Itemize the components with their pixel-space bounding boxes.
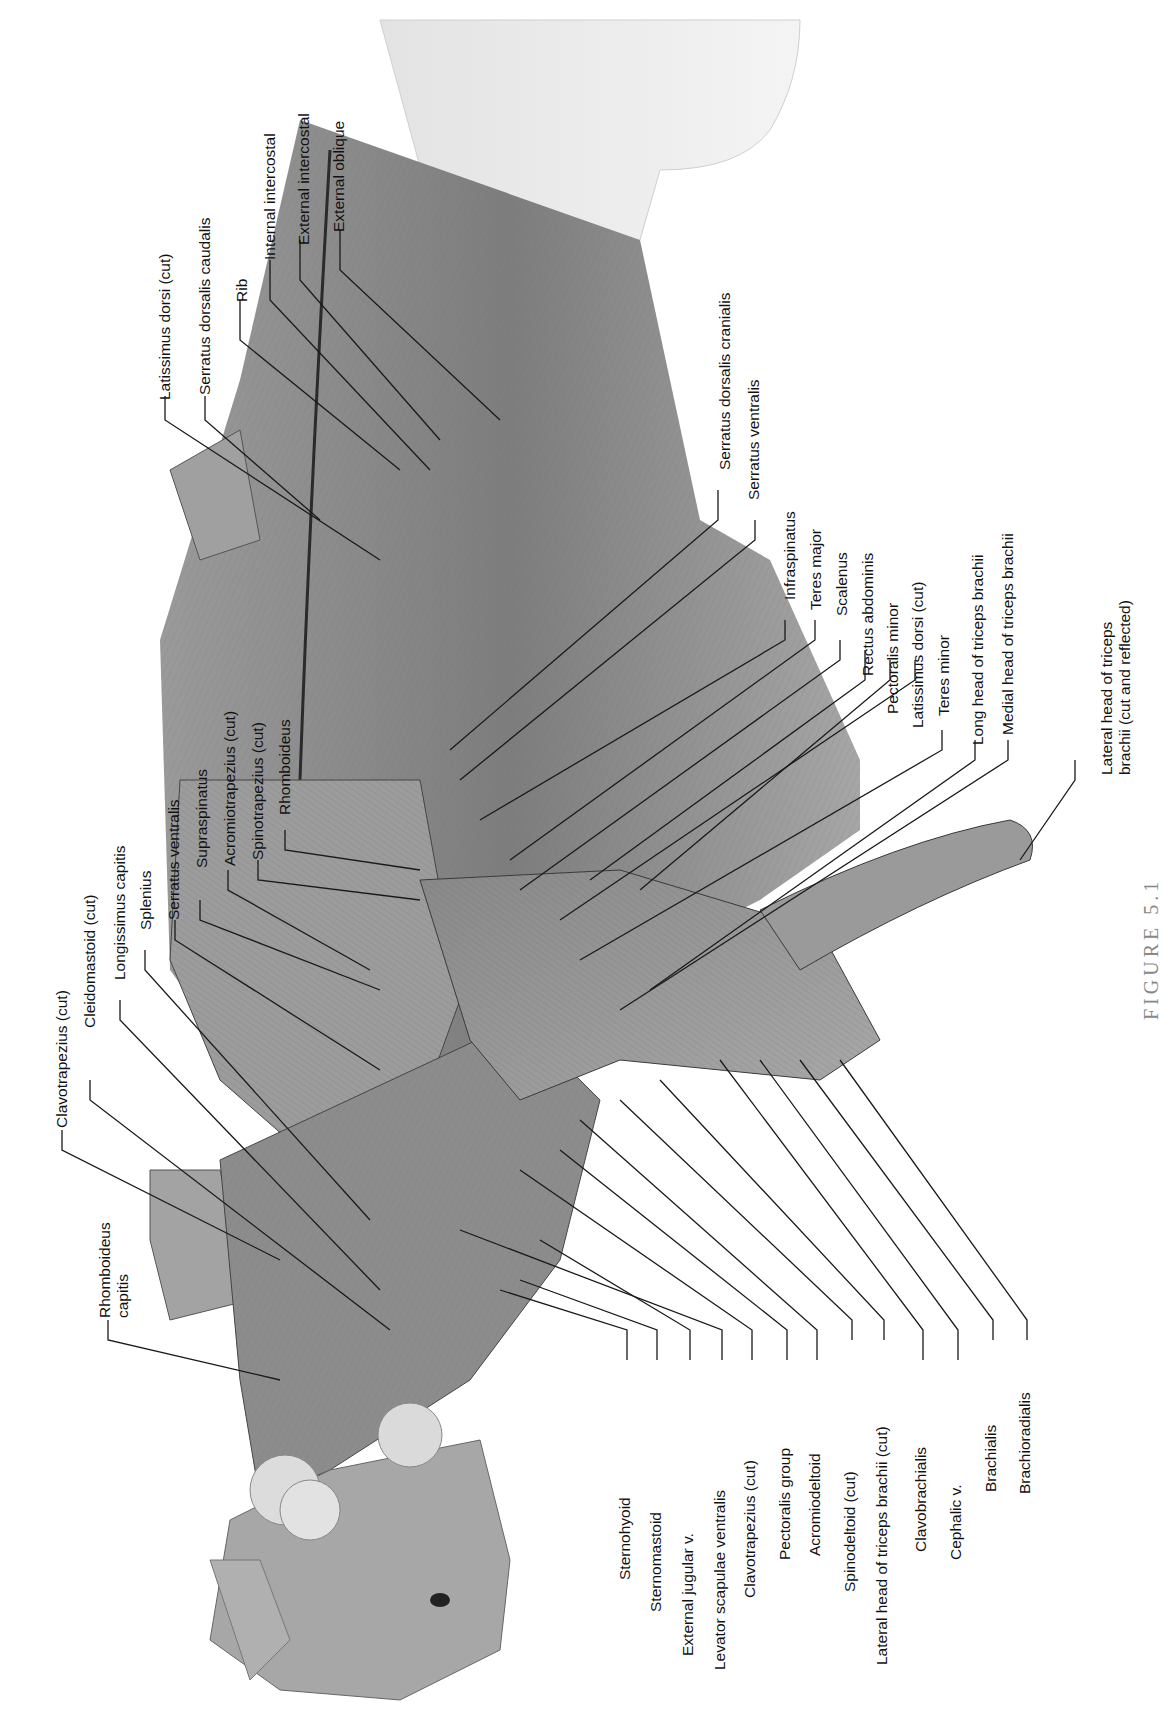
label-supraspinatus: Supraspinatus bbox=[194, 769, 210, 868]
label-sternohyoid: Sternohyoid bbox=[617, 1497, 633, 1580]
label-clavotrapezius-cut-left: Clavotrapezius (cut) bbox=[54, 990, 70, 1128]
label-splenius: Splenius bbox=[138, 871, 154, 930]
eye bbox=[430, 1593, 450, 1607]
label-latissimus-dorsi-cut-top: Latissimus dorsi (cut) bbox=[157, 254, 173, 400]
label-rhomboideus-capitis: Rhomboideus capitis bbox=[96, 1222, 132, 1318]
label-rhomboideus-capitis-line1: Rhomboideus bbox=[96, 1222, 114, 1318]
label-pectoralis-minor: Pectoralis minor bbox=[885, 603, 901, 714]
label-external-jugular-v: External jugular v. bbox=[680, 1533, 696, 1656]
label-rhomboideus: Rhomboideus bbox=[277, 719, 293, 815]
label-latissimus-dorsi-cut-right: Latissimus dorsi (cut) bbox=[910, 582, 926, 728]
label-teres-minor: Teres minor bbox=[936, 635, 952, 716]
label-cleidomastoid-cut: Cleidomastoid (cut) bbox=[82, 894, 98, 1028]
label-serratus-dorsalis-cranialis: Serratus dorsalis cranialis bbox=[717, 293, 733, 470]
label-cephalic-v: Cephalic v. bbox=[948, 1484, 964, 1560]
label-sternomastoid: Sternomastoid bbox=[648, 1512, 664, 1612]
label-serratus-ventralis-right: Serratus ventralis bbox=[746, 379, 762, 500]
label-lateral-head-triceps-cut: Lateral head of triceps brachii (cut) bbox=[874, 1426, 890, 1665]
label-serratus-dorsalis-caudalis: Serratus dorsalis caudalis bbox=[197, 218, 213, 395]
label-rhomboideus-capitis-line2: capitis bbox=[114, 1222, 132, 1318]
label-infraspinatus: Infraspinatus bbox=[782, 511, 798, 600]
label-levator-scapulae-ventralis: Levator scapulae ventralis bbox=[712, 1490, 728, 1670]
label-acromiodeltoid: Acromiodeltoid bbox=[807, 1453, 823, 1556]
label-clavobrachialis: Clavobrachialis bbox=[913, 1447, 929, 1552]
label-medial-head-triceps: Medial head of triceps brachii bbox=[1000, 533, 1016, 735]
label-rib: Rib bbox=[234, 279, 250, 302]
label-external-intercostal: External intercostal bbox=[296, 113, 312, 245]
label-serratus-ventralis-left: Serratus ventralis bbox=[166, 799, 182, 920]
figure-caption: FIGURE 5.1 bbox=[1140, 878, 1163, 1020]
label-spinotrapezius-cut: Spinotrapezius (cut) bbox=[250, 722, 266, 860]
label-lateral-head-triceps-reflected: Lateral head of triceps brachii (cut and… bbox=[1098, 600, 1134, 775]
label-brachialis: Brachialis bbox=[983, 1425, 999, 1492]
label-brachioradialis: Brachioradialis bbox=[1017, 1392, 1033, 1494]
label-rectus-abdominis: Rectus abdominis bbox=[860, 553, 876, 676]
label-longissimus-capitis: Longissimus capitis bbox=[112, 846, 128, 980]
label-long-head-triceps: Long head of triceps brachii bbox=[970, 555, 986, 745]
label-external-oblique: External oblique bbox=[331, 121, 347, 232]
label-lateral-head-triceps-reflected-line1: Lateral head of triceps bbox=[1098, 600, 1116, 775]
label-teres-major: Teres major bbox=[808, 529, 824, 610]
label-internal-intercostal: Internal intercostal bbox=[262, 133, 278, 260]
label-spinodeltoid-cut: Spinodeltoid (cut) bbox=[842, 1471, 858, 1592]
label-acromiotrapezius-cut: Acromiotrapezius (cut) bbox=[222, 711, 238, 866]
label-clavotrapezius-cut-bottom: Clavotrapezius (cut) bbox=[742, 1460, 758, 1598]
label-pectoralis-group: Pectoralis group bbox=[777, 1448, 793, 1560]
label-scalenus: Scalenus bbox=[834, 552, 850, 616]
label-lateral-head-triceps-reflected-line2: brachii (cut and reflected) bbox=[1116, 600, 1134, 775]
